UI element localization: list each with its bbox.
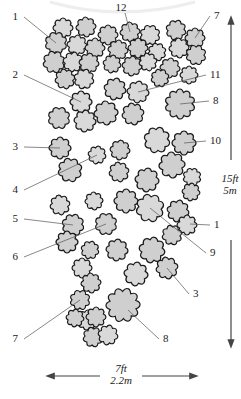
planting-diagram: 1127211831045169378 15ft 5m 7ft 2.2m	[0, 0, 241, 399]
callout-label-11: 11	[210, 68, 221, 80]
plant-shape	[182, 183, 200, 201]
width-dimension: 7ft 2.2m	[50, 362, 194, 386]
plant-shape	[81, 273, 101, 293]
callout-label-8b: 8	[163, 332, 169, 344]
plants-group	[43, 17, 205, 347]
plant-shape	[74, 110, 96, 132]
plant-shape	[67, 35, 87, 55]
plant-shape	[50, 195, 70, 215]
plant-shape	[76, 17, 96, 37]
leader-line-3b	[167, 268, 189, 294]
plant-shape	[86, 307, 106, 327]
width-ft-label: 7ft	[115, 362, 128, 374]
plant-shape	[169, 38, 189, 58]
callout-label-7b: 7	[13, 332, 19, 344]
plant-shape	[85, 192, 103, 210]
leader-line-4	[24, 155, 97, 190]
plant-shape	[124, 262, 148, 286]
height-dimension: 15ft 5m	[221, 20, 239, 344]
plant-shape	[110, 140, 130, 160]
plant-shape	[104, 78, 126, 100]
plant-shape	[94, 101, 118, 125]
plant-shape	[103, 55, 121, 73]
plant-shape	[159, 152, 185, 178]
plant-shape	[55, 69, 75, 89]
plant-shape	[122, 56, 142, 76]
plant-shape	[66, 309, 84, 327]
callout-label-3: 3	[13, 140, 19, 152]
plant-shape	[151, 69, 168, 86]
plant-shape	[144, 127, 169, 152]
plant-shape	[58, 158, 81, 181]
plant-shape	[109, 162, 129, 182]
leader-line-11	[138, 75, 206, 92]
plant-shape	[106, 239, 128, 261]
plant-shape	[166, 20, 185, 39]
height-ft-label: 15ft	[221, 172, 239, 184]
plant-shape	[180, 66, 198, 84]
plant-shape	[49, 108, 70, 129]
callout-label-4: 4	[13, 183, 19, 195]
callout-label-8: 8	[213, 94, 219, 106]
leader-line-8b	[128, 310, 159, 339]
callout-label-12: 12	[116, 1, 127, 13]
plant-shape	[122, 103, 144, 125]
callout-label-5: 5	[13, 212, 19, 224]
plant-shape	[139, 53, 157, 71]
leader-line-1	[24, 17, 56, 43]
callout-label-10: 10	[210, 134, 222, 146]
plant-shape	[114, 189, 138, 213]
height-m-label: 5m	[223, 184, 237, 196]
callout-label-1: 1	[13, 10, 19, 22]
plant-shape	[139, 237, 165, 263]
callout-label-7: 7	[214, 9, 220, 21]
callout-label-6: 6	[13, 250, 19, 262]
plant-shape	[81, 241, 98, 258]
plant-shape	[135, 168, 159, 192]
width-m-label: 2.2m	[110, 374, 132, 386]
callout-label-9: 9	[210, 246, 216, 258]
planting-plan-svg: 1127211831045169378 15ft 5m 7ft 2.2m	[0, 0, 241, 399]
callout-label-3b: 3	[193, 287, 199, 299]
plant-shape	[56, 231, 78, 253]
plant-shape	[98, 325, 118, 345]
callout-label-2: 2	[13, 68, 19, 80]
callout-label-1b: 1	[214, 218, 220, 230]
